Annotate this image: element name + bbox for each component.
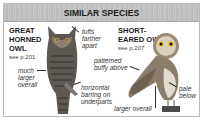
great-horned-owl-illustration-icon [42,22,82,118]
note-patterned-buffy-above: patterned buffy above [94,57,128,71]
note-larger-overall: larger overall [114,105,152,112]
species-name-great-horned-owl: GREAT HORNED OWL [9,26,42,53]
page-reference-link[interactable]: see p.201 [9,54,35,60]
similar-species-panel: SIMILAR SPECIES GREAT HORNED OWL see p.2… [3,3,200,117]
note-horizontal-barring: horizontal barring on underparts [81,84,112,105]
note-pale-below: pale below [179,85,196,99]
note-line: overall [18,81,37,88]
leader-line [37,70,46,71]
panel-header: SIMILAR SPECIES [4,4,199,22]
note-line: pale [179,85,196,92]
name-line: HORNED [9,35,42,44]
note-line: buffy above [94,64,128,71]
note-tufts-farther-apart: tufts farther apart [82,28,101,49]
note-line: underparts [81,98,112,105]
note-line: patterned [94,57,128,64]
note-line: larger [18,74,37,81]
short-eared-owl-illustration-icon [122,28,184,114]
note-line: horizontal [81,84,112,91]
name-line: OWL [9,44,42,53]
note-line: tufts [82,28,101,35]
name-line: GREAT [9,26,42,35]
note-line: apart [82,42,101,49]
note-line: below [179,92,196,99]
note-line: larger overall [114,105,152,112]
note-line: barring on [81,91,112,98]
note-line: much [18,67,37,74]
note-much-larger-overall: much larger overall [18,67,37,88]
panel-title: SIMILAR SPECIES [64,8,140,18]
leader-line [155,86,156,108]
note-line: farther [82,35,101,42]
